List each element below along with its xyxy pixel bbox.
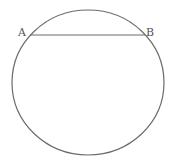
circle-chord-diagram: A B bbox=[0, 0, 171, 165]
point-label-b: B bbox=[146, 26, 154, 39]
point-label-a: A bbox=[17, 26, 27, 39]
circle bbox=[12, 10, 164, 155]
